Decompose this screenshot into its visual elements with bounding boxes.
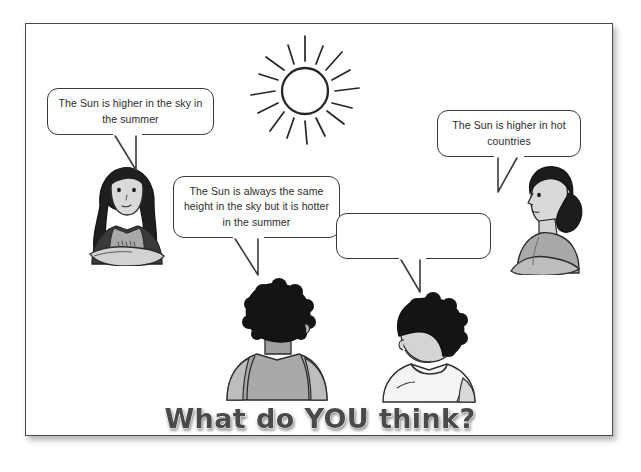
worksheet-page: The Sun is higher in the sky in the summ… (0, 0, 641, 472)
speech-bubble-sun-higher-summer: The Sun is higher in the sky in the summ… (47, 88, 214, 135)
speech-bubble-text: The Sun is higher in hot countries (438, 118, 580, 148)
person-girl-long-hair (70, 158, 182, 266)
person-boy-white-shirt (371, 292, 487, 404)
speech-bubble-same-height-hotter: The Sun is always the same height in the… (173, 176, 340, 238)
speech-bubble-tail (112, 133, 148, 173)
page-title: What do YOU think? (0, 396, 641, 444)
speech-bubble-tail (398, 257, 434, 295)
speech-bubble-blank[interactable] (336, 213, 491, 259)
svg-text:What do YOU think?: What do YOU think? (164, 403, 475, 434)
speech-bubble-tail (492, 155, 532, 195)
speech-bubble-tail (232, 236, 272, 278)
speech-bubble-text: The Sun is higher in the sky in the summ… (48, 96, 213, 126)
speech-bubble-hot-countries: The Sun is higher in hot countries (437, 110, 581, 157)
speech-bubble-text: The Sun is always the same height in the… (174, 184, 339, 230)
sun-icon (246, 32, 364, 150)
person-child-afro-back (213, 278, 339, 402)
